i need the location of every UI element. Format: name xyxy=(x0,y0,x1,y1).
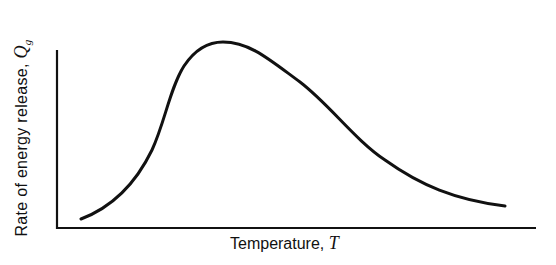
y-axis-label: Rate of energy release, Qg xyxy=(11,39,33,236)
energy-release-curve xyxy=(81,42,505,219)
chart xyxy=(0,0,556,265)
x-axis-label: Temperature, T xyxy=(230,233,339,254)
